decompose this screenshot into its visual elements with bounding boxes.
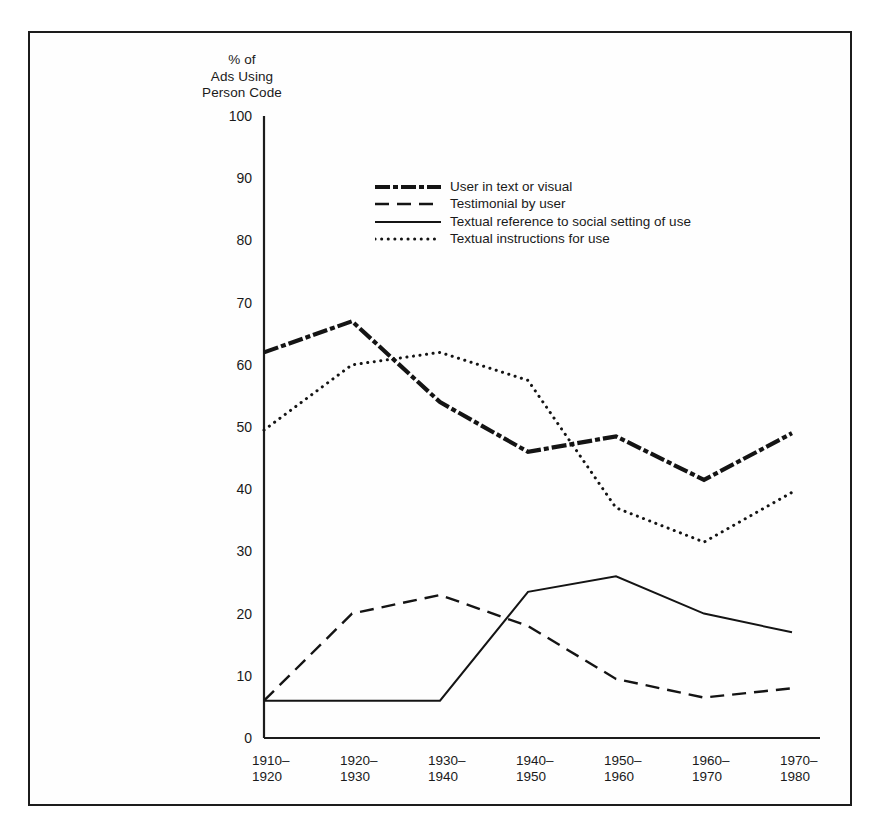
plot-canvas <box>30 33 854 808</box>
legend-item: User in text or visual <box>375 178 691 196</box>
chart-legend: User in text or visualTestimonial by use… <box>375 178 691 248</box>
legend-item: Textual instructions for use <box>375 231 691 249</box>
figure-frame: % of Ads Using Person Code 0102030405060… <box>28 31 852 806</box>
y-axis-tick-label: 10 <box>206 669 252 683</box>
legend-item: Testimonial by user <box>375 196 691 214</box>
x-axis-tick-label: 1920– 1930 <box>340 753 424 785</box>
legend-line-swatch-icon <box>375 181 441 193</box>
y-axis-tick-label: 70 <box>206 296 252 310</box>
y-axis-tick-label: 100 <box>206 109 252 123</box>
y-axis-tick-label: 80 <box>206 233 252 247</box>
series-line <box>264 595 792 701</box>
y-axis-tick-label: 50 <box>206 420 252 434</box>
legend-item-label: Textual instructions for use <box>450 232 610 246</box>
x-axis-tick-label: 1930– 1940 <box>428 753 512 785</box>
series-line <box>264 352 792 542</box>
x-axis-tick-label: 1910– 1920 <box>252 753 336 785</box>
legend-item-label: User in text or visual <box>450 180 572 194</box>
y-axis-tick-label: 0 <box>206 731 252 745</box>
x-axis-tick-label: 1960– 1970 <box>692 753 776 785</box>
x-axis-tick-label: 1940– 1950 <box>516 753 600 785</box>
y-axis-tick-label: 60 <box>206 358 252 372</box>
y-axis-tick-label: 90 <box>206 171 252 185</box>
legend-line-swatch-icon <box>375 233 441 245</box>
y-axis-tick-label: 30 <box>206 544 252 558</box>
legend-line-swatch-icon <box>375 216 441 228</box>
legend-item: Textual reference to social setting of u… <box>375 213 691 231</box>
y-axis-tick-label: 40 <box>206 482 252 496</box>
y-axis-tick-label: 20 <box>206 607 252 621</box>
series-line <box>264 321 792 480</box>
data-series <box>264 321 792 700</box>
series-line <box>264 576 792 700</box>
x-axis-tick-label: 1970– 1980 <box>780 753 864 785</box>
legend-line-swatch-icon <box>375 198 441 210</box>
chart-area: % of Ads Using Person Code 0102030405060… <box>30 33 854 808</box>
x-axis-tick-label: 1950– 1960 <box>604 753 688 785</box>
legend-item-label: Testimonial by user <box>450 197 566 211</box>
legend-item-label: Textual reference to social setting of u… <box>450 215 691 229</box>
